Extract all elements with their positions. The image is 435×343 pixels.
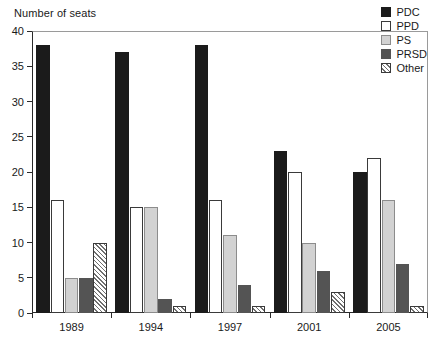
y-axis-tick: 0 [0,307,32,319]
x-axis-tick-mark [32,313,33,318]
x-axis-tick-mark [190,313,191,318]
bar-ppd-1989 [51,200,65,313]
legend-swatch-pdc-icon [381,7,391,17]
bar-chart: Number of seats 0510152025303540 1989199… [0,0,435,343]
legend-label: PRSD [396,48,427,60]
bar-ppd-2005 [367,158,381,313]
legend-label: PPD [396,20,419,32]
x-axis-tick-mark [349,313,350,318]
bar-prsd-2001 [317,271,331,313]
y-axis-tick: 5 [0,272,32,284]
x-axis: 19891994199720012005 [32,313,428,343]
y-axis-tick-label: 10 [12,237,24,249]
bar-other-1989 [93,243,107,314]
y-axis-tick: 10 [0,237,32,249]
legend: PDCPPDPSPRSDOther [379,4,429,76]
y-axis-tick-label: 25 [12,131,24,143]
y-axis: 0510152025303540 [0,0,32,343]
y-axis-tick-label: 20 [12,166,24,178]
bar-ppd-1994 [130,207,144,313]
y-axis-tick-label: 5 [18,272,24,284]
legend-label: Other [396,62,424,74]
x-axis-tick-label: 1997 [218,321,242,334]
bar-pdc-1994 [115,52,129,313]
bar-other-1997 [252,306,266,313]
y-axis-tick: 20 [0,166,32,178]
y-axis-tick: 40 [0,25,32,37]
bar-pdc-1989 [36,45,50,313]
bar-ppd-1997 [209,200,223,313]
x-axis-tick-label: 1989 [59,321,83,334]
legend-swatch-other-icon [381,63,391,73]
y-axis-tick-label: 30 [12,96,24,108]
legend-item-pdc[interactable]: PDC [381,5,427,19]
x-axis-tick-label: 2005 [376,321,400,334]
bar-other-2001 [331,292,345,313]
y-axis-tick-label: 35 [12,60,24,72]
legend-label: PS [396,34,411,46]
legend-item-ppd[interactable]: PPD [381,19,427,33]
bar-other-2005 [410,306,424,313]
y-axis-tick: 30 [0,96,32,108]
legend-swatch-ppd-icon [381,21,391,31]
bar-ps-1997 [223,235,237,313]
bar-ps-1994 [144,207,158,313]
y-axis-tick-label: 40 [12,25,24,37]
bar-prsd-1989 [79,278,93,313]
bar-pdc-1997 [195,45,209,313]
legend-item-prsd[interactable]: PRSD [381,47,427,61]
bar-prsd-1997 [238,285,252,313]
y-axis-tick: 25 [0,131,32,143]
x-axis-tick-label: 2001 [297,321,321,334]
bar-ps-2005 [382,200,396,313]
bar-ps-2001 [302,243,316,314]
x-axis-tick-label: 1994 [139,321,163,334]
legend-label: PDC [396,6,419,18]
bar-ps-1989 [65,278,79,313]
bars-layer [32,31,428,313]
bar-pdc-2005 [353,172,367,313]
x-axis-tick-mark [427,313,428,318]
bar-prsd-1994 [158,299,172,313]
x-axis-tick-mark [111,313,112,318]
bar-prsd-2005 [396,264,410,313]
y-axis-tick-label: 0 [18,307,24,319]
x-axis-tick-mark [270,313,271,318]
legend-item-other[interactable]: Other [381,61,427,75]
y-axis-tick: 15 [0,201,32,213]
legend-swatch-ps-icon [381,35,391,45]
y-axis-tick: 35 [0,60,32,72]
bar-other-1994 [173,306,187,313]
bar-pdc-2001 [274,151,288,313]
bar-ppd-2001 [288,172,302,313]
y-axis-tick-label: 15 [12,201,24,213]
legend-swatch-prsd-icon [381,49,391,59]
legend-item-ps[interactable]: PS [381,33,427,47]
